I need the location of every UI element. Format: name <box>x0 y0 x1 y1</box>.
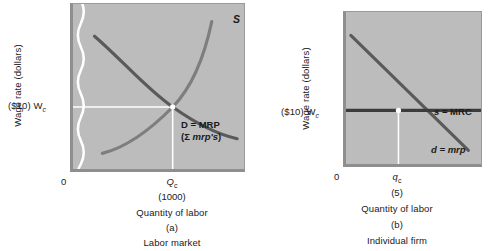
panel-b-supply-label-rest: = MRC <box>439 106 471 117</box>
panel-a-quantity-tick-label: Qc <box>152 176 192 189</box>
panel-b-quantity-tick-label: qc <box>378 171 416 184</box>
panel-a-sigma-text: (Σ <box>181 131 193 142</box>
panel-a-origin-label: 0 <box>61 176 66 187</box>
panel-a-plot-area: S D = MRP (Σ mrp's) <box>70 3 245 172</box>
panel-a-demand-label-line2: (Σ mrp's) <box>181 131 221 143</box>
panel-b-curves <box>346 12 481 164</box>
panel-a-wage-tick-sub: c <box>42 106 46 113</box>
panel-b-panel-caption: Individual firm <box>317 235 477 246</box>
panel-b-wage-tick-text: ($10) W <box>281 106 315 117</box>
panel-a-close-paren: ) <box>218 131 221 142</box>
panel-b-wage-tick-sub: c <box>315 112 319 119</box>
panel-b-demand-curve <box>351 35 469 150</box>
panel-a-wage-tick-text: ($10) W <box>8 100 42 111</box>
panel-a-demand-curve-label: D = MRP (Σ mrp's) <box>181 119 221 142</box>
panel-b-quantity-tick-sub: c <box>398 177 402 184</box>
panel-a-demand-label-line1: D = MRP <box>181 119 221 131</box>
panel-b-panel-tag: (b) <box>317 219 477 230</box>
panel-a-panel-caption: Labor market <box>92 237 252 248</box>
panel-b-y-axis-title: Wage rate (dollars) <box>300 34 311 144</box>
panel-a-curves <box>73 4 244 169</box>
panel-a-y-axis-title: Wage rate (dollars) <box>12 31 23 141</box>
panel-b-demand-curve-label: d = mrp <box>431 144 466 155</box>
panel-b-x-axis-title: Quantity of labor <box>317 203 477 214</box>
panel-b-equilibrium-point <box>396 108 401 113</box>
panel-a-supply-curve-label: S <box>233 13 240 25</box>
panel-b-origin-label: 0 <box>334 171 339 182</box>
panel-a-quantity-tick-text: Q <box>167 176 174 187</box>
panel-a-axis-break-wave <box>78 4 84 169</box>
figure-labor-market-and-individual-firm: Wage rate (dollars) S D = MRP (Σ m <box>0 0 491 251</box>
panel-b-quantity-value: (5) <box>378 187 416 198</box>
panel-a-x-axis-title: Quantity of labor <box>92 207 252 218</box>
panel-b-wage-tick-label: ($10) Wc <box>281 106 319 119</box>
panel-a-panel-tag: (a) <box>92 222 252 233</box>
panel-a-mrp-text: mrp's <box>193 131 219 142</box>
panel-a-quantity-tick-sub: c <box>174 182 178 189</box>
panel-a-wage-tick-label: ($10) Wc <box>8 100 46 113</box>
panel-b-plot-area: d = mrp <box>343 11 482 167</box>
panel-a-quantity-value: (1000) <box>150 191 194 202</box>
panel-a-equilibrium-point <box>170 104 175 109</box>
panel-b-supply-curve-label: s = MRC <box>434 106 472 117</box>
